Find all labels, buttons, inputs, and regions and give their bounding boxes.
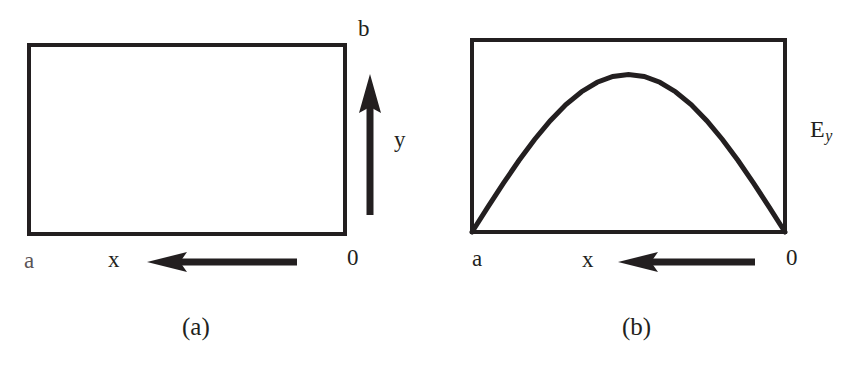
- label-x-axis-a: x: [108, 248, 120, 271]
- waveguide-rectangle-a: [29, 45, 345, 234]
- label-x-axis-b: x: [582, 248, 594, 271]
- panel-a: a x 0 b y (a): [0, 0, 432, 368]
- label-field-subscript: y: [825, 127, 832, 144]
- caption-panel-b: (b): [622, 314, 651, 339]
- figure-root: a x 0 b y (a) a x 0 Ey (b): [0, 0, 863, 368]
- label-y-axis-a: y: [394, 128, 406, 151]
- x-axis-arrow-a: [147, 252, 297, 272]
- y-axis-arrow: [359, 74, 381, 215]
- label-field-ey: Ey: [810, 117, 832, 144]
- label-width-origin-a: 0: [347, 246, 359, 269]
- caption-panel-a: (a): [182, 314, 210, 339]
- panel-b: a x 0 Ey (b): [431, 0, 863, 368]
- field-profile-curve: [472, 75, 785, 232]
- waveguide-rectangle-b: [472, 40, 785, 232]
- label-field-symbol: E: [810, 116, 825, 142]
- label-width-end-b: a: [472, 247, 482, 270]
- label-width-origin-b: 0: [786, 246, 798, 269]
- label-height-end-a: b: [358, 17, 370, 40]
- label-width-end-a: a: [24, 249, 34, 272]
- x-axis-arrow-b: [618, 252, 755, 272]
- panel-a-graphics: [0, 0, 432, 368]
